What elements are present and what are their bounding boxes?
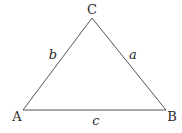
triangle-abc [23,18,166,110]
vertex-label-a: A [11,109,22,124]
vertex-label-c: C [87,2,97,17]
side-label-a: a [129,47,137,62]
triangle-diagram: A B C a b c [0,0,182,133]
side-label-b: b [49,47,57,62]
vertex-label-b: B [167,109,177,124]
side-label-c: c [92,113,100,128]
